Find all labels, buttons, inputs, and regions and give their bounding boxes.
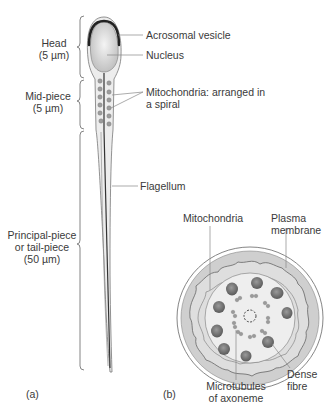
label-microtubules: Microtubules of axoneme bbox=[200, 380, 272, 404]
label-flagellum: Flagellum bbox=[140, 180, 186, 192]
label-mitochondria-spiral: Mitochondria: arranged in a spiral bbox=[146, 86, 265, 110]
cross-section bbox=[177, 226, 323, 389]
label-dense-fibre: Dense fibre bbox=[287, 368, 317, 392]
size-braces bbox=[77, 16, 84, 370]
sperm-cell bbox=[87, 17, 121, 372]
label-principal-piece: Principal-piece or tail-piece (50 µm) bbox=[4, 229, 80, 265]
label-head: Head (5 µm) bbox=[30, 37, 78, 61]
panel-label-a: (a) bbox=[26, 388, 39, 400]
label-mitochondria: Mitochondria bbox=[183, 212, 243, 224]
label-mid-piece: Mid-piece (5 µm) bbox=[18, 90, 78, 114]
panel-label-b: (b) bbox=[163, 388, 176, 400]
label-acrosomal-vesicle: Acrosomal vesicle bbox=[146, 29, 231, 41]
label-nucleus: Nucleus bbox=[146, 49, 184, 61]
label-plasma-membrane: Plasma membrane bbox=[271, 212, 321, 236]
